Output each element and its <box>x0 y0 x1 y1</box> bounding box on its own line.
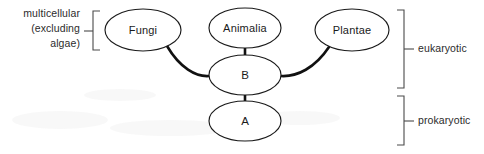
left-bracket-group: multicellular (excluding algae) <box>23 7 100 50</box>
classification-diagram: Fungi Animalia Plantae B A multicellular… <box>0 0 484 154</box>
multicellular-label-line-1: multicellular <box>23 7 80 19</box>
animalia-label: Animalia <box>223 22 267 34</box>
node-plantae[interactable]: Plantae <box>315 9 389 51</box>
scan-artifacts <box>12 89 340 136</box>
node-b[interactable]: B <box>209 55 281 95</box>
prokaryotic-bracket <box>397 96 404 145</box>
plantae-label: Plantae <box>333 24 372 36</box>
prokaryotic-label: prokaryotic <box>418 114 470 126</box>
eukaryotic-bracket <box>397 10 404 88</box>
multicellular-label-line-3: algae) <box>50 37 80 49</box>
node-a[interactable]: A <box>209 101 281 141</box>
eukaryotic-bracket-group: eukaryotic <box>397 10 467 88</box>
node-animalia[interactable]: Animalia <box>209 8 281 48</box>
diagram-canvas: Fungi Animalia Plantae B A multicellular… <box>0 0 484 154</box>
a-label: A <box>241 115 249 127</box>
multicellular-label-line-2: (excluding <box>31 22 80 34</box>
prokaryotic-bracket-group: prokaryotic <box>397 96 470 145</box>
node-fungi[interactable]: Fungi <box>105 9 181 51</box>
connector-plantae-to-b <box>281 47 329 76</box>
b-label: B <box>241 69 249 81</box>
fungi-label: Fungi <box>129 24 158 36</box>
multicellular-bracket <box>93 11 100 50</box>
connector-fungi-to-b <box>167 46 209 76</box>
eukaryotic-label: eukaryotic <box>418 42 467 54</box>
